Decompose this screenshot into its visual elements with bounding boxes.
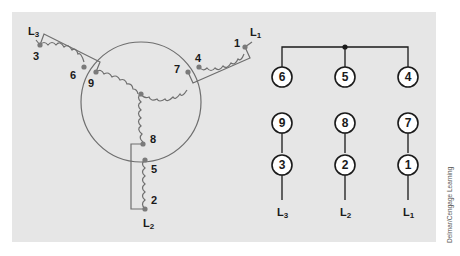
- terminal-dot-4: [196, 64, 201, 69]
- table-line-l3: L3: [277, 206, 289, 220]
- table-line-l2: L2: [340, 206, 352, 220]
- label-terminal-6: 6: [70, 69, 76, 81]
- connection-table: 6 5 4 9 8 7 3 2 1 L3 L2 L1: [272, 44, 418, 220]
- label-terminal-2: 2: [151, 194, 157, 206]
- table-label-3: 3: [279, 158, 286, 172]
- label-l2: L2: [143, 217, 155, 231]
- wye-center-dot: [138, 91, 143, 96]
- terminal-dot-3: [37, 42, 42, 47]
- label-terminal-7: 7: [174, 63, 180, 75]
- jumper-l3-9: [40, 34, 100, 72]
- star-junction-dot: [342, 44, 347, 49]
- coil-5-2: [143, 160, 146, 209]
- table-label-1: 1: [405, 158, 412, 172]
- coil-3-6: [40, 43, 84, 63]
- wye-connection-diagram: L3 3 6 9 7 4 1 L1 8 5 2 L2: [0, 0, 460, 256]
- terminal-dot-8: [140, 141, 145, 146]
- terminal-dot-9: [93, 69, 98, 74]
- image-credit: Delmar/Cengage Learning: [446, 167, 453, 243]
- label-l3: L3: [28, 25, 40, 39]
- table-line-l1: L1: [403, 206, 415, 220]
- terminal-dot-5: [142, 157, 147, 162]
- table-label-4: 4: [405, 70, 412, 84]
- terminal-dot-7: [185, 69, 190, 74]
- coil-center-7: [141, 90, 187, 101]
- label-l1: L1: [250, 26, 262, 40]
- label-terminal-3: 3: [33, 50, 39, 62]
- table-label-8: 8: [342, 116, 349, 130]
- coil-4-1: [199, 54, 244, 71]
- table-label-5: 5: [342, 70, 349, 84]
- label-terminal-1: 1: [234, 37, 240, 49]
- label-terminal-5: 5: [151, 163, 157, 175]
- label-terminal-8: 8: [150, 133, 156, 145]
- table-label-9: 9: [279, 116, 286, 130]
- coil-center-8: [139, 94, 144, 142]
- label-terminal-4: 4: [195, 52, 202, 64]
- label-terminal-9: 9: [88, 77, 94, 89]
- terminal-dot-6: [81, 64, 86, 69]
- coil-9-center: [96, 70, 138, 94]
- terminal-dot-1: [242, 44, 247, 49]
- table-label-6: 6: [279, 70, 286, 84]
- table-label-7: 7: [405, 116, 412, 130]
- jumper-8-l2: [131, 144, 145, 209]
- table-label-2: 2: [342, 158, 349, 172]
- terminal-dot-2: [142, 206, 147, 211]
